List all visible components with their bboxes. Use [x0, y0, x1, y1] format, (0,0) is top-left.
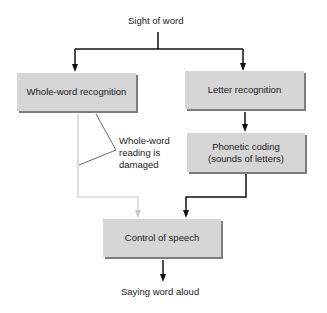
damage-annotation: Whole-word reading is damaged — [119, 135, 170, 171]
annotation-pointer-lines — [79, 114, 116, 165]
arrow-to-speech-from-whole-word-icon — [135, 210, 141, 218]
node-phonetic-label-line2: (sounds of letters) — [208, 153, 284, 165]
annotation-line-3: damaged — [119, 159, 170, 171]
output-label-saying-word-aloud: Saying word aloud — [121, 286, 199, 297]
arrow-to-output-icon — [160, 274, 166, 282]
node-speech-label: Control of speech — [125, 232, 199, 244]
input-label-sight-of-word: Sight of word — [128, 15, 183, 26]
node-control-of-speech: Control of speech — [103, 219, 221, 257]
annotation-line-1: Whole-word — [119, 135, 170, 147]
node-phonetic-label-line1: Phonetic coding — [212, 141, 280, 153]
arrow-to-speech-from-phonetic-icon — [183, 210, 189, 218]
phonetic-to-speech-connector — [186, 174, 246, 210]
node-whole-word-label: Whole-word recognition — [27, 86, 127, 98]
arrow-to-letter-icon — [240, 63, 246, 71]
node-letter-label: Letter recognition — [208, 84, 281, 96]
node-phonetic-coding: Phonetic coding (sounds of letters) — [187, 133, 305, 172]
node-whole-word-recognition: Whole-word recognition — [17, 73, 136, 111]
arrow-to-phonetic-icon — [242, 124, 248, 132]
annotation-line-2: reading is — [119, 147, 170, 159]
arrow-to-whole-word-icon — [72, 64, 78, 72]
node-letter-recognition: Letter recognition — [185, 71, 304, 109]
sight-split-connector — [75, 32, 243, 64]
